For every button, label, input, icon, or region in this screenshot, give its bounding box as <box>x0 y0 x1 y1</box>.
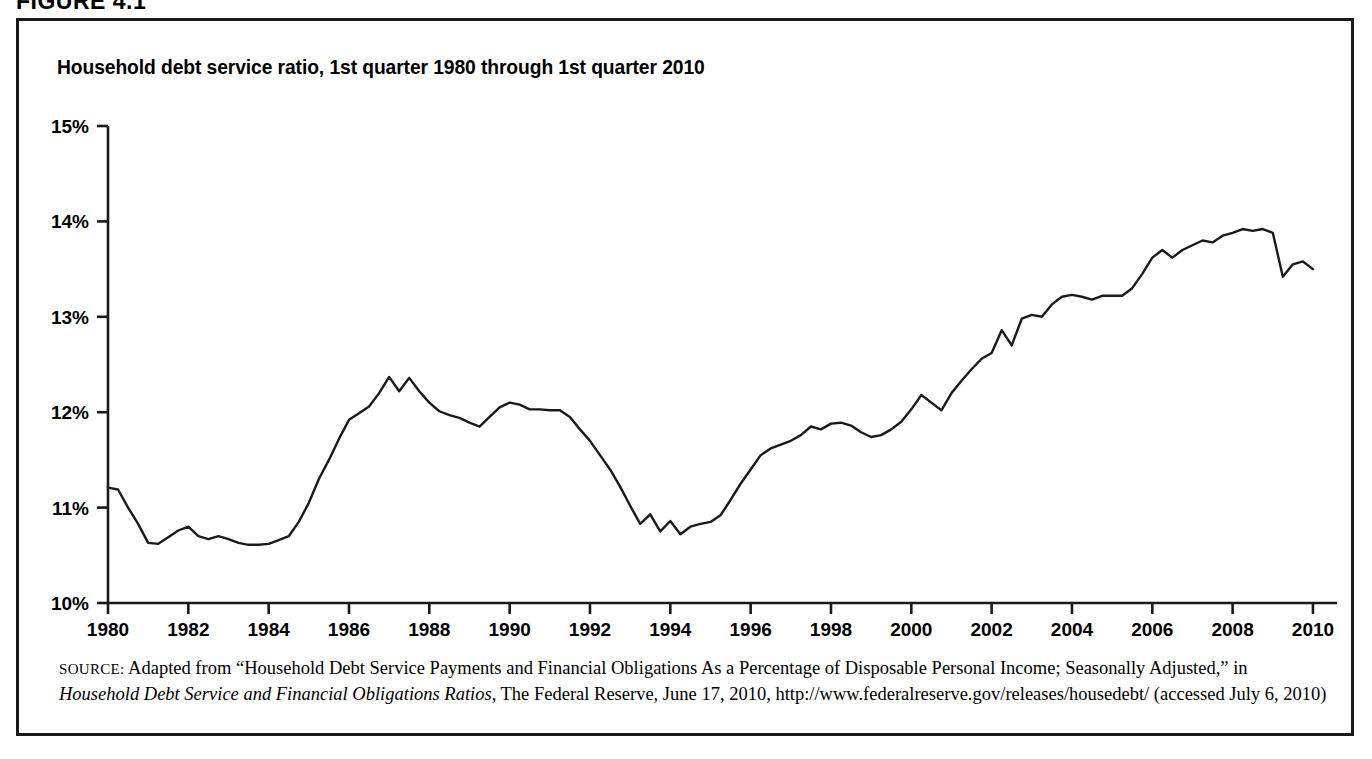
line-chart-svg: 10%11%12%13%14%15% 198019821984198619881… <box>19 21 1357 739</box>
x-axis-tick-label: 1996 <box>730 619 772 640</box>
source-text-part2: , The Federal Reserve, June 17, 2010, ht… <box>492 684 1327 704</box>
x-axis-tick-label: 1980 <box>87 619 129 640</box>
x-axis-tick-label: 2002 <box>970 619 1012 640</box>
x-axis-tick-label: 2008 <box>1211 619 1253 640</box>
source-note: SOURCE: Adapted from “Household Debt Ser… <box>59 655 1327 708</box>
x-axis-tick-label: 1998 <box>810 619 852 640</box>
x-axis-tick-label: 1992 <box>569 619 611 640</box>
y-axis: 10%11%12%13%14%15% <box>51 116 108 614</box>
source-publication-title: Household Debt Service and Financial Obl… <box>59 684 492 704</box>
x-axis-tick-label: 1994 <box>649 619 692 640</box>
x-axis-tick-label: 1990 <box>489 619 531 640</box>
y-axis-tick-label: 15% <box>51 116 89 137</box>
y-axis-tick-label: 14% <box>51 211 89 232</box>
x-axis-tick-label: 1984 <box>248 619 291 640</box>
x-axis-tick-label: 2000 <box>890 619 932 640</box>
source-text-part1: Adapted from “Household Debt Service Pay… <box>124 658 1247 678</box>
figure-label: FIGURE 4.1 <box>16 0 146 15</box>
figure-box: Household debt service ratio, 1st quarte… <box>16 18 1354 736</box>
chart-plot-area: 10%11%12%13%14%15% 198019821984198619881… <box>19 21 1357 739</box>
source-keyword: SOURCE: <box>59 661 124 677</box>
x-axis-tick-label: 1986 <box>328 619 370 640</box>
x-axis-tick-label: 2006 <box>1131 619 1173 640</box>
data-line <box>108 229 1313 545</box>
x-axis-tick-label: 1988 <box>408 619 450 640</box>
y-axis-tick-label: 10% <box>51 593 89 614</box>
x-axis: 1980198219841986198819901992199419961998… <box>87 603 1337 640</box>
y-axis-tick-label: 11% <box>52 498 89 519</box>
x-axis-tick-label: 1982 <box>167 619 209 640</box>
x-axis-tick-label: 2010 <box>1292 619 1334 640</box>
y-axis-tick-label: 12% <box>51 402 89 423</box>
x-axis-tick-label: 2004 <box>1051 619 1094 640</box>
y-axis-tick-label: 13% <box>51 307 89 328</box>
data-series-group <box>108 229 1313 545</box>
